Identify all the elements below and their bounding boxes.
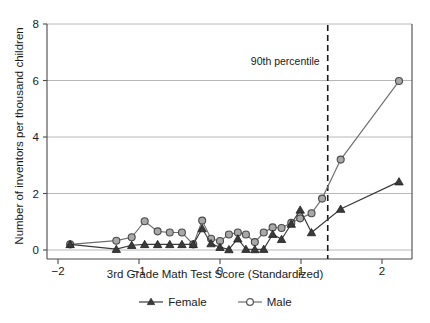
svg-text:2: 2 [33,188,39,200]
legend-marker-male-icon [237,296,263,308]
chart-legend: Female Male [0,296,430,308]
legend-entry-male: Male [237,296,292,308]
legend-label-male: Male [267,296,292,308]
legend-marker-female-icon [138,296,164,308]
chart-figure: −2−1012 02468 90th percentile 3rd Grade … [0,0,430,323]
x-axis-title: 3rd Grade Math Test Score (Standardized) [0,268,430,280]
series-male [67,78,403,248]
legend-entry-female: Female [138,296,206,308]
svg-text:4: 4 [33,131,40,143]
y-axis-title: Number of inventors per thousand childre… [13,1,25,271]
y-axis-ticks: 02468 [33,18,47,256]
axis-lines [47,24,412,259]
legend-label-female: Female [168,296,206,308]
chart-annotations: 90th percentile [251,55,320,67]
svg-text:0: 0 [33,244,39,256]
svg-text:90th percentile: 90th percentile [251,55,320,67]
svg-text:8: 8 [33,18,39,30]
svg-text:6: 6 [33,75,39,87]
